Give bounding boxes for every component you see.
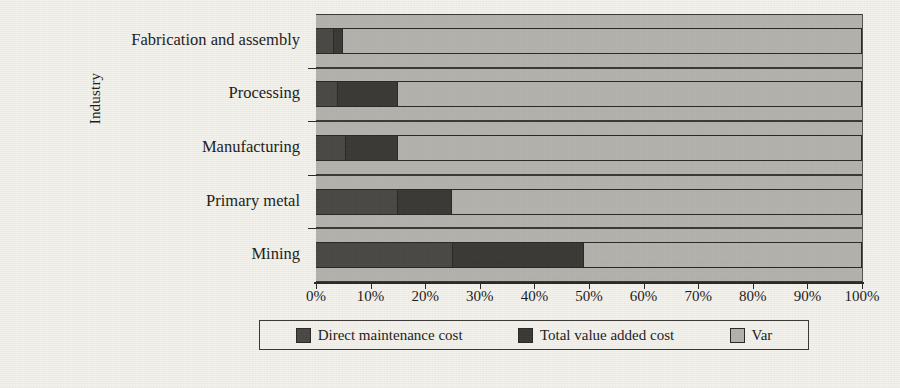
bar-segment[interactable] — [346, 135, 398, 161]
y-axis-tick-label: Mining — [55, 246, 300, 263]
stacked-bar[interactable] — [316, 135, 862, 161]
y-axis-tick — [308, 228, 316, 229]
plot-area — [316, 14, 862, 282]
x-axis-tick-label: 10% — [341, 288, 401, 305]
gridline-vertical — [862, 14, 863, 282]
chart-band-row — [316, 121, 862, 175]
bar-segment[interactable] — [584, 242, 862, 268]
chart-band-row — [316, 228, 862, 282]
bar-segment[interactable] — [316, 135, 346, 161]
chart-band-row — [316, 14, 862, 68]
bar-segment[interactable] — [334, 28, 343, 54]
x-axis-tick-label: 50% — [559, 288, 619, 305]
chart-band-row — [316, 175, 862, 229]
x-axis-tick-label: 100% — [832, 288, 892, 305]
legend-item[interactable]: Direct maintenance cost — [296, 327, 463, 344]
x-axis-tick-label: 90% — [777, 288, 837, 305]
y-axis-category-labels: Fabrication and assemblyProcessingManufa… — [60, 14, 308, 282]
x-axis-tick-label: 80% — [723, 288, 783, 305]
legend-swatch-icon — [518, 328, 533, 343]
stacked-bar[interactable] — [316, 242, 862, 268]
stacked-bar[interactable] — [316, 189, 862, 215]
chart-band-row — [316, 68, 862, 122]
legend-label: Var — [752, 327, 773, 344]
y-axis-tick-label: Fabrication and assembly — [55, 32, 300, 49]
x-axis-tick-label: 30% — [450, 288, 510, 305]
bar-segment[interactable] — [452, 189, 862, 215]
bar-segment[interactable] — [316, 242, 453, 268]
bar-segment[interactable] — [316, 28, 334, 54]
y-axis-tick — [308, 68, 316, 69]
chart-legend: Direct maintenance costTotal value added… — [259, 320, 809, 350]
legend-swatch-icon — [730, 328, 745, 343]
x-axis-tick-label: 60% — [614, 288, 674, 305]
stacked-bar[interactable] — [316, 28, 862, 54]
legend-label: Direct maintenance cost — [318, 327, 463, 344]
legend-item[interactable]: Var — [730, 327, 773, 344]
bar-segment[interactable] — [398, 81, 862, 107]
bar-segment[interactable] — [398, 135, 862, 161]
x-axis-tick-label: 70% — [668, 288, 728, 305]
y-axis-tick-label: Manufacturing — [55, 139, 300, 156]
y-axis-tick — [308, 175, 316, 176]
stacked-bar-chart-figure: Industry Fabrication and assemblyProcess… — [0, 0, 900, 388]
x-axis-tick-label: 0% — [286, 288, 346, 305]
legend-item[interactable]: Total value added cost — [518, 327, 674, 344]
legend-label: Total value added cost — [540, 327, 674, 344]
y-axis-tick-label: Processing — [55, 85, 300, 102]
bar-segment[interactable] — [316, 81, 338, 107]
bar-segment[interactable] — [316, 189, 398, 215]
stacked-bar[interactable] — [316, 81, 862, 107]
bar-segment[interactable] — [453, 242, 584, 268]
x-axis-tick-label: 20% — [395, 288, 455, 305]
y-axis-tick — [308, 121, 316, 122]
bar-segment[interactable] — [338, 81, 398, 107]
bar-segment[interactable] — [398, 189, 453, 215]
x-axis-tick-label: 40% — [504, 288, 564, 305]
bar-segment[interactable] — [343, 28, 862, 54]
y-axis-tick-label: Primary metal — [55, 193, 300, 210]
legend-swatch-icon — [296, 328, 311, 343]
